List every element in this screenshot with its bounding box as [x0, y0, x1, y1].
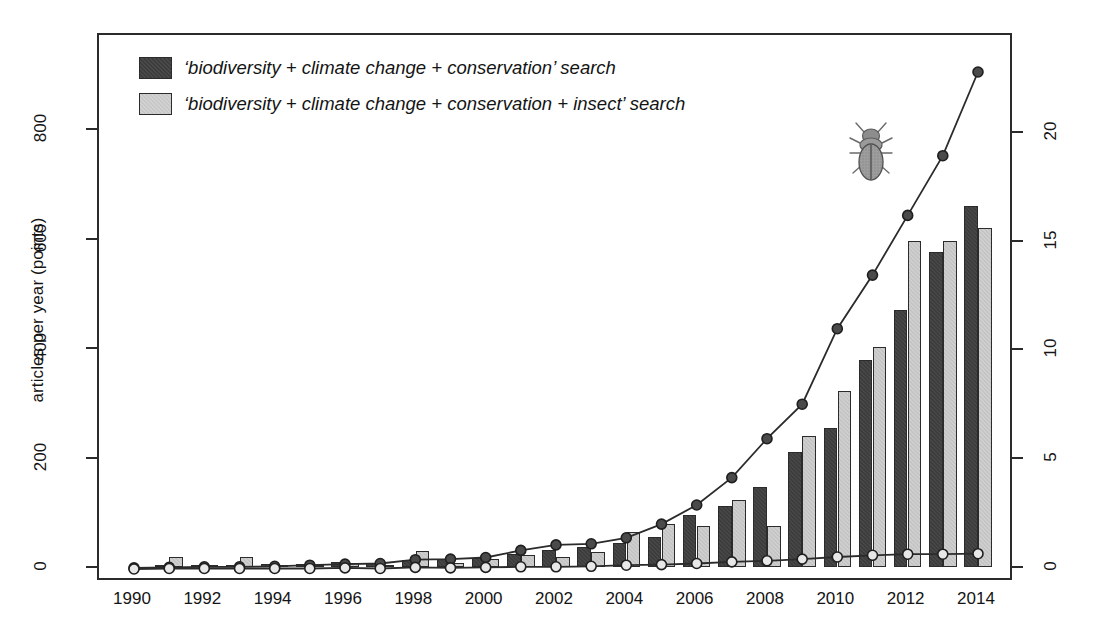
y-left-tick-mark: [86, 457, 97, 459]
series-point: [727, 473, 737, 483]
series-point: [762, 556, 772, 566]
y-right-tick-label: 15: [1041, 218, 1061, 262]
series-point: [410, 562, 420, 572]
x-axis-tick-label: 2000: [454, 589, 514, 609]
series-point: [973, 549, 983, 559]
y-left-tick-mark: [86, 128, 97, 130]
series-point: [832, 324, 842, 334]
series-point: [797, 399, 807, 409]
y-left-tick-label: 0: [31, 536, 51, 596]
x-axis-tick-label: 2002: [524, 589, 584, 609]
series-point: [973, 67, 983, 77]
y-left-tick-label: 200: [31, 427, 51, 487]
series-point: [727, 557, 737, 567]
y-right-tick-mark: [1012, 240, 1023, 242]
series-point: [516, 545, 526, 555]
y-right-tick-mark: [1012, 348, 1023, 350]
series-point: [868, 270, 878, 280]
series-point: [692, 559, 702, 569]
legend-label-0: ‘biodiversity + climate change + conserv…: [184, 57, 616, 79]
series-point: [586, 561, 596, 571]
series-point: [938, 549, 948, 559]
y-left-tick-label: 400: [31, 317, 51, 377]
series-point: [797, 554, 807, 564]
y-right-tick-mark: [1012, 566, 1023, 568]
legend-swatch-dark: [139, 57, 172, 79]
x-axis-tick-label: 1996: [313, 589, 373, 609]
series-point: [868, 550, 878, 560]
series-point: [481, 553, 491, 563]
series-point: [621, 533, 631, 543]
y-right-tick-label: 10: [1041, 326, 1061, 370]
series-point: [164, 564, 174, 574]
x-axis-tick-label: 1998: [383, 589, 443, 609]
plot-area: ‘biodiversity + climate change + conserv…: [97, 33, 1012, 580]
figure-root: articles per year (points) % of total ar…: [0, 0, 1098, 639]
beetle-icon: [847, 119, 895, 183]
series-point: [903, 210, 913, 220]
legend-item-1: ‘biodiversity + climate change + conserv…: [139, 89, 685, 119]
x-axis-tick-label: 1994: [243, 589, 303, 609]
series-point: [692, 500, 702, 510]
legend: ‘biodiversity + climate change + conserv…: [139, 53, 685, 125]
series-point: [375, 564, 385, 574]
series-point: [551, 562, 561, 572]
x-axis-tick-label: 2006: [665, 589, 725, 609]
series-point: [446, 563, 456, 573]
y-right-tick-mark: [1012, 131, 1023, 133]
y-left-tick-label: 800: [31, 98, 51, 158]
legend-item-0: ‘biodiversity + climate change + conserv…: [139, 53, 685, 83]
x-axis-tick-label: 2010: [805, 589, 865, 609]
y-right-tick-label: 20: [1041, 109, 1061, 153]
series-point: [199, 564, 209, 574]
series-point: [938, 151, 948, 161]
y-left-tick-label: 600: [31, 208, 51, 268]
series-point: [832, 552, 842, 562]
series-point: [129, 564, 139, 574]
x-axis-tick-label: 1992: [172, 589, 232, 609]
y-left-tick-mark: [86, 238, 97, 240]
y-right-tick-label: 5: [1041, 435, 1061, 479]
series-point: [270, 564, 280, 574]
series-point: [903, 549, 913, 559]
y-left-tick-mark: [86, 347, 97, 349]
x-axis-tick-label: 2014: [946, 589, 1006, 609]
y-left-tick-mark: [86, 566, 97, 568]
legend-label-1: ‘biodiversity + climate change + conserv…: [184, 93, 685, 115]
y-right-tick-mark: [1012, 457, 1023, 459]
x-axis-tick-label: 2008: [735, 589, 795, 609]
series-point: [762, 434, 772, 444]
series-point: [340, 563, 350, 573]
y-right-tick-label: 0: [1041, 544, 1061, 588]
series-point: [551, 540, 561, 550]
series-point: [586, 539, 596, 549]
x-axis-tick-label: 2012: [876, 589, 936, 609]
series-point: [621, 560, 631, 570]
x-axis-tick-label: 1990: [102, 589, 162, 609]
x-axis-tick-label: 2004: [594, 589, 654, 609]
series-point: [657, 519, 667, 529]
series-point: [235, 564, 245, 574]
series-point: [657, 560, 667, 570]
series-point: [516, 562, 526, 572]
series-point: [305, 564, 315, 574]
series-point: [481, 562, 491, 572]
legend-swatch-light: [139, 93, 172, 115]
